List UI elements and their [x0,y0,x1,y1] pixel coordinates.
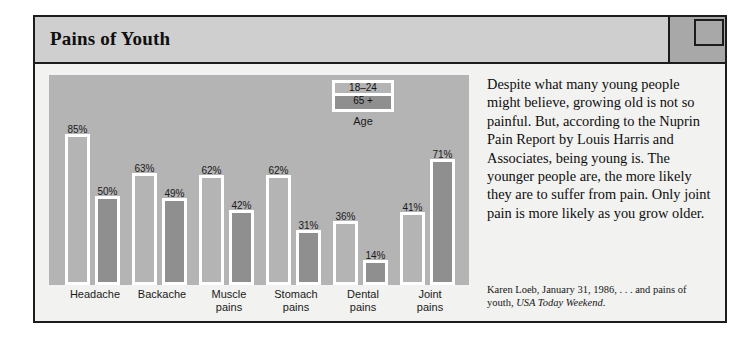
legend: 18–24 65 + Age [332,80,394,127]
bar-young: 41% [400,212,425,285]
corner-square [694,19,724,46]
title-band: Pains of Youth [35,17,725,64]
bar-young: 62% [199,175,224,285]
bar-value-label: 62% [268,165,288,176]
bar-old: 50% [95,196,120,285]
bar-value-label: 63% [134,163,154,174]
credit-source: USA Today Weekend [516,297,603,308]
figure-body: 85%50%63%49%62%42%62%31%36%14%41%71% 18–… [35,64,725,321]
legend-item-young: 18–24 [332,80,394,96]
sidebar: Despite what many young people might bel… [487,75,711,309]
bar-old: 42% [229,210,254,285]
bar-old: 31% [296,230,321,285]
category-label-line: pains [391,301,469,314]
bar-value-label: 31% [298,220,318,231]
legend-title: Age [332,115,394,127]
legend-item-old: 65 + [332,96,394,112]
bar-old: 49% [162,198,187,285]
blurb-text: Despite what many young people might bel… [487,75,711,222]
bar-young: 62% [266,175,291,285]
bar-group: 62%42% [197,75,261,285]
bar-value-label: 85% [67,124,87,135]
category-label-line: Joint [391,288,469,301]
bar-old: 71% [430,159,455,285]
credit-end: . [603,297,606,308]
figure-frame: Pains of Youth 85%50%63%49%62%42%62%31%3… [33,15,727,323]
bar-value-label: 41% [402,202,422,213]
bar-young: 36% [333,221,358,285]
page-title: Pains of Youth [50,28,170,50]
bar-value-label: 14% [365,250,385,261]
legend-label-old: 65 + [353,95,373,106]
corner-block [668,17,725,62]
bar-value-label: 62% [201,165,221,176]
category-label: Jointpains [391,288,469,313]
bar-value-label: 50% [97,186,117,197]
bar-value-label: 71% [432,149,452,160]
bar-group: 62%31% [264,75,328,285]
bar-old: 14% [363,260,388,285]
bar-chart-plot: 85%50%63%49%62%42%62%31%36%14%41%71% [49,75,469,285]
bar-value-label: 49% [164,188,184,199]
bar-young: 85% [65,134,90,285]
credit-line: Karen Loeb, January 31, 1986, . . . and … [487,283,709,309]
bar-value-label: 42% [231,200,251,211]
chart-panel: 85%50%63%49%62%42%62%31%36%14%41%71% 18–… [49,75,469,285]
bar-value-label: 36% [335,211,355,222]
bar-young: 63% [132,173,157,285]
bar-group: 85%50% [63,75,127,285]
legend-label-young: 18–24 [349,82,377,93]
bar-group: 41%71% [398,75,462,285]
bar-group: 63%49% [130,75,194,285]
